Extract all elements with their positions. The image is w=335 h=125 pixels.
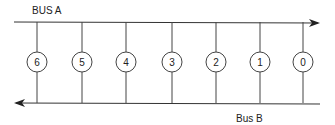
station-node: 0: [293, 22, 313, 103]
station-label: 6: [34, 57, 40, 68]
bus-a-line: [14, 22, 318, 23]
dual-bus-diagram: 6543210 BUS A Bus B: [0, 0, 335, 125]
station-label: 5: [79, 57, 85, 68]
station-node: 1: [250, 22, 270, 103]
station-node: 3: [162, 22, 182, 103]
station-label: 3: [169, 57, 175, 68]
station-label: 1: [257, 57, 263, 68]
station-node: 5: [72, 22, 92, 103]
bus-b-label: Bus B: [236, 113, 263, 124]
nodes-group: 6543210: [27, 22, 313, 103]
station-node: 6: [27, 22, 47, 103]
station-label: 4: [123, 57, 129, 68]
diagram-canvas: 6543210: [0, 0, 335, 125]
station-label: 2: [213, 57, 219, 68]
station-node: 4: [116, 22, 136, 103]
station-node: 2: [206, 22, 226, 103]
bus-a-label: BUS A: [32, 5, 61, 16]
station-label: 0: [300, 57, 306, 68]
bus-b-line: [16, 103, 320, 104]
